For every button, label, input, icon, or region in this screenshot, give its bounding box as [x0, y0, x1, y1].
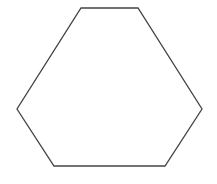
- hexagon-shape: [17, 8, 202, 166]
- diagram-canvas: [0, 0, 217, 184]
